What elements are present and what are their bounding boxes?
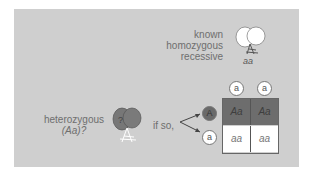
gamete-A: A <box>202 106 217 121</box>
punnett-cell: aa <box>251 126 278 152</box>
label-line: homozygous <box>163 40 223 51</box>
label-line: (Aa)? <box>38 125 110 136</box>
label-line: known <box>163 29 223 40</box>
punnett-cell: Aa <box>251 99 278 125</box>
gamete-a: a <box>202 130 217 145</box>
gamete-a: a <box>257 81 272 96</box>
known-genotype: aa <box>243 56 253 66</box>
gamete-a: a <box>229 81 244 96</box>
label-line: heterozygous <box>38 114 110 125</box>
punnett-cell: Aa <box>223 99 251 125</box>
white-flower-icon <box>234 24 268 58</box>
label-line: recessive <box>163 51 223 62</box>
svg-text:?: ? <box>118 115 123 125</box>
if-so-label: if so, <box>153 120 174 131</box>
known-parent-label: known homozygous recessive <box>163 29 223 62</box>
purple-flower-icon: ? <box>110 106 144 146</box>
punnett-square: Aa Aa aa aa <box>222 98 279 154</box>
test-parent-label: heterozygous (Aa)? <box>38 114 110 136</box>
punnett-cell: aa <box>223 126 251 152</box>
